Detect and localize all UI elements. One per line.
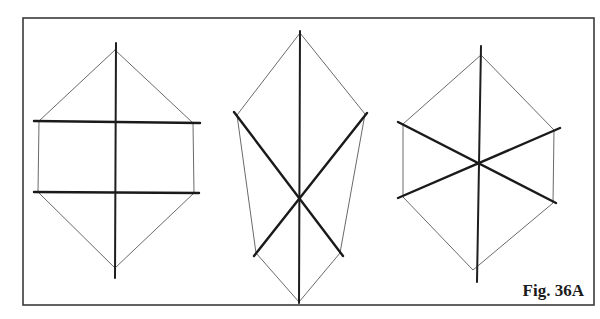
figure-3-bold-diagonal-down [398, 122, 556, 203]
figure-2-outline [237, 33, 365, 302]
figure-canvas: Fig. 36A [0, 0, 600, 319]
figure-1-hexagon-horizontal-bars [34, 43, 200, 278]
figure-2-bold-diagonal-down [234, 112, 343, 256]
figure-1-vertical-axis [115, 43, 116, 278]
figure-2-bold-diagonal-up [254, 113, 367, 256]
figure-3-hexagon-six-spokes [398, 46, 560, 282]
figure-2-elongated-hexagon-x-cross [234, 31, 367, 303]
figure-1-bold-line-upper [34, 121, 200, 123]
figure-caption: Fig. 36A [523, 281, 585, 300]
figure-2-vertical-axis [299, 31, 300, 303]
figure-1-bold-line-lower [34, 192, 199, 193]
